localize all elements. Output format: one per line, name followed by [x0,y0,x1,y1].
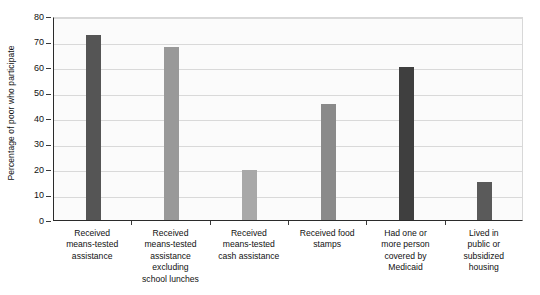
x-axis-tick-mark [210,221,211,225]
x-axis-category-label-line: means-tested [53,239,131,250]
y-axis-tick-label: 30 [22,139,44,150]
x-axis-category-labels: Receivedmeans-testedassistanceReceivedme… [53,228,523,294]
x-axis-category-label-line: Received [210,228,288,239]
x-axis-category-label-line: cash assistance [210,251,288,262]
y-axis-tick-mark [46,196,51,197]
x-axis-category-label-line: Received [131,228,209,239]
x-axis-tick-mark [131,221,132,225]
x-axis-category-label-line: school lunches [131,274,209,285]
x-axis-category-label: Lived inpublic orsubsidizedhousing [445,228,523,274]
y-axis-tick-mark [46,221,51,222]
y-axis-tick-mark [46,170,51,171]
x-axis-category-label-line: stamps [288,239,366,250]
y-axis-tick-label: 60 [22,63,44,74]
x-axis-category-label: Receivedmeans-testedcash assistance [210,228,288,262]
plot-area [53,17,523,221]
bar [164,47,179,220]
x-axis-category-label: Received foodstamps [288,228,366,251]
y-axis-tick-mark [46,145,51,146]
bar [399,67,414,220]
bar-chart-figure: Percentage of poor who participate 01020… [0,0,540,295]
x-axis-category-label: Receivedmeans-testedassistanceexcludings… [131,228,209,285]
bar [86,35,101,220]
x-axis-tick-mark [366,221,367,225]
x-axis-category-label: Receivedmeans-testedassistance [53,228,131,262]
x-axis-tick-mark [445,221,446,225]
y-axis-tick-label: 50 [22,88,44,99]
y-axis-tick-label: 40 [22,114,44,125]
x-axis-category-label-line: Received [53,228,131,239]
y-axis-tick-label: 20 [22,165,44,176]
y-axis-tick-label: 80 [22,12,44,23]
x-axis-category-label-line: Lived in [445,228,523,239]
x-axis-category-label-line: Had one or [366,228,444,239]
y-axis-tick-mark [46,94,51,95]
y-axis-tick-label: 70 [22,37,44,48]
bars-layer [54,18,522,220]
x-axis-category-label-line: housing [445,262,523,273]
bar [321,104,336,220]
y-axis-title-text: Percentage of poor who participate [6,45,16,180]
y-axis-title: Percentage of poor who participate [0,0,22,225]
y-axis-tick-mark [46,68,51,69]
x-axis-category-label-line: means-tested [210,239,288,250]
bar [477,182,492,220]
x-axis-category-label-line: assistance [131,251,209,262]
x-axis-category-label-line: Medicaid [366,262,444,273]
x-axis-tick-mark [288,221,289,225]
x-axis-category-label-line: public or [445,239,523,250]
x-axis-category-label-line: covered by [366,251,444,262]
x-axis-category-label: Had one ormore personcovered byMedicaid [366,228,444,274]
y-axis-tick-label: 10 [22,190,44,201]
y-axis-tick-label: 0 [22,216,44,227]
x-axis-category-label-line: more person [366,239,444,250]
x-axis-category-label-line: assistance [53,251,131,262]
x-axis-category-label-line: means-tested [131,239,209,250]
y-axis-tick-mark [46,43,51,44]
y-axis-tick-labels: 01020304050607080 [22,11,47,226]
bar [242,170,257,220]
y-axis-tick-mark [46,119,51,120]
x-axis-category-label-line: excluding [131,262,209,273]
x-axis-tick-marks [53,221,523,226]
x-axis-category-label-line: subsidized [445,251,523,262]
y-axis-tick-mark [46,17,51,18]
x-axis-category-label-line: Received food [288,228,366,239]
